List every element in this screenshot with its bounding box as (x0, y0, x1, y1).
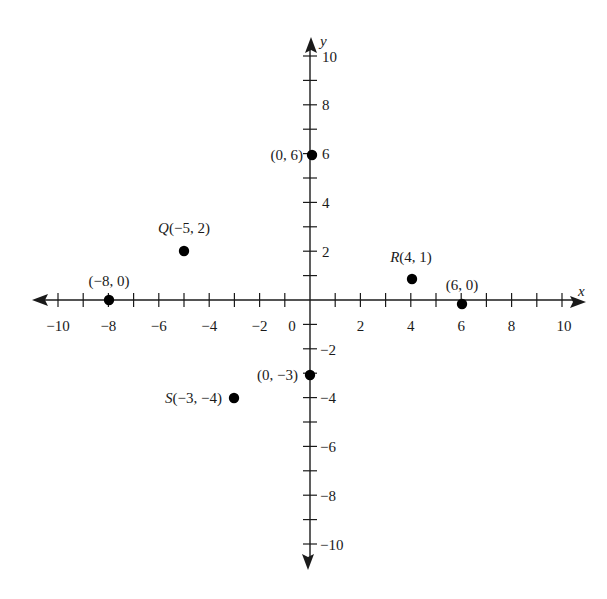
point-0-neg3: (0, −3) (257, 367, 315, 384)
point-q: Q(−5, 2) (158, 220, 210, 256)
y-axis-down-arrow-icon (302, 554, 314, 570)
origin-label: 0 (288, 318, 296, 334)
y-tick-label: 8 (322, 97, 330, 113)
x-tick-label: −2 (252, 318, 268, 334)
y-axis: 10 8 6 4 2 −2 −4 −6 −8 −10 y (302, 33, 343, 570)
point-label: (0, −3) (257, 367, 298, 384)
x-axis: −10 −8 −6 −4 −2 0 2 4 6 8 10 x (32, 283, 586, 334)
point-s: S(−3, −4) (165, 390, 239, 407)
y-axis-label: y (318, 33, 327, 49)
point-label: S(−3, −4) (165, 390, 222, 407)
y-tick-label: 10 (322, 49, 337, 65)
y-tick-label: −10 (320, 537, 343, 553)
y-tick-label: −2 (320, 342, 336, 358)
x-tick-label: −10 (46, 318, 69, 334)
x-tick-label: 2 (357, 318, 365, 334)
x-tick-label: 8 (508, 318, 516, 334)
point-label: (0, 6) (271, 147, 304, 164)
point-label: (−8, 0) (89, 273, 130, 290)
point-label: R(4, 1) (389, 249, 432, 266)
y-tick-label: −8 (320, 488, 336, 504)
y-tick-label: 4 (322, 195, 330, 211)
x-tick-label: −6 (151, 318, 167, 334)
point-label: (6, 0) (446, 277, 479, 294)
x-axis-label: x (577, 283, 585, 299)
y-tick-label: 6 (322, 146, 330, 162)
x-tick-label: 10 (557, 318, 572, 334)
y-axis-up-arrow-icon (305, 37, 317, 53)
x-tick-label: 6 (457, 318, 465, 334)
x-tick-label: −8 (100, 318, 116, 334)
point-6-0: (6, 0) (446, 277, 479, 309)
y-tick-label: −4 (320, 390, 336, 406)
data-points: (0, 6) Q(−5, 2) (−8, 0) R(4, 1) (6, 0) (… (89, 147, 479, 407)
x-tick-label: −4 (201, 318, 217, 334)
coordinate-plane: −10 −8 −6 −4 −2 0 2 4 6 8 10 x (0, 0, 607, 599)
y-tick-label: −6 (320, 439, 336, 455)
point-label: Q(−5, 2) (158, 220, 210, 237)
y-tick-label: 2 (322, 244, 330, 260)
point-r: R(4, 1) (389, 249, 432, 284)
x-tick-label: 4 (407, 318, 415, 334)
